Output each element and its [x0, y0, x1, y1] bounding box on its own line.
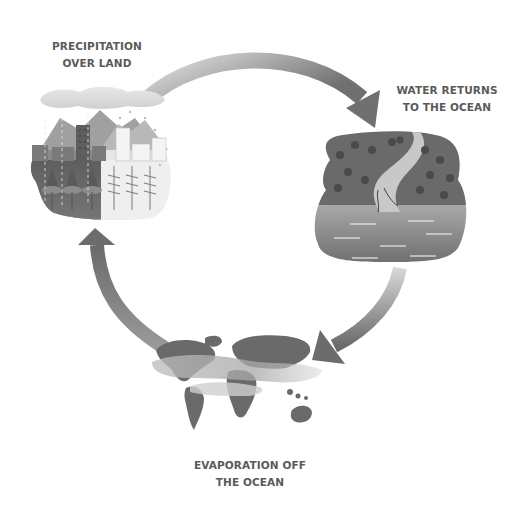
- river-to-ocean-illustration: [300, 125, 480, 265]
- city-forest-rain-illustration: [25, 87, 176, 230]
- water-cycle-diagram: [0, 0, 517, 506]
- label-water-returns-to-ocean: WATER RETURNS TO THE OCEAN: [382, 82, 512, 116]
- label-water-returns-line2: TO THE OCEAN: [382, 99, 512, 116]
- label-precipitation-over-land: PRECIPITATION OVER LAND: [32, 38, 162, 72]
- label-evaporation-off-ocean: EVAPORATION OFF THE OCEAN: [175, 457, 325, 491]
- arrow-evaporation-to-precipitation: [78, 228, 165, 348]
- world-map-illustration: [152, 335, 322, 430]
- label-water-returns-line1: WATER RETURNS: [382, 82, 512, 99]
- label-evaporation-line2: THE OCEAN: [175, 474, 325, 491]
- arrow-precipitation-to-runoff: [148, 60, 380, 128]
- label-evaporation-line1: EVAPORATION OFF: [175, 457, 325, 474]
- label-precipitation-line2: OVER LAND: [32, 55, 162, 72]
- arrow-runoff-to-evaporation: [312, 268, 400, 364]
- label-precipitation-line1: PRECIPITATION: [32, 38, 162, 55]
